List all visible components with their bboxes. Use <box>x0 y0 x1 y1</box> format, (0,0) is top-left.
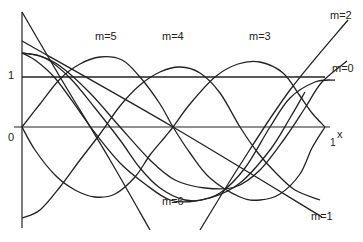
curve-group <box>22 12 348 230</box>
curve-label-m3: m=3 <box>249 31 271 42</box>
curve-label-m2: m=2 <box>330 10 352 21</box>
x-axis-variable: x <box>337 129 343 140</box>
origin-label: 0 <box>8 132 14 143</box>
curve-m3 <box>22 53 347 189</box>
curve-m2 <box>200 20 348 230</box>
x-tick-one: 1 <box>330 138 336 148</box>
curve-label-m1: m=1 <box>311 211 333 222</box>
curve-label-m6: m=6 <box>162 196 184 207</box>
curve-label-m4: m=4 <box>162 31 184 42</box>
curve-label-m0: m=0 <box>332 63 354 74</box>
curve-label-m5: m=5 <box>95 31 117 42</box>
y-tick-one: 1 <box>8 70 14 81</box>
